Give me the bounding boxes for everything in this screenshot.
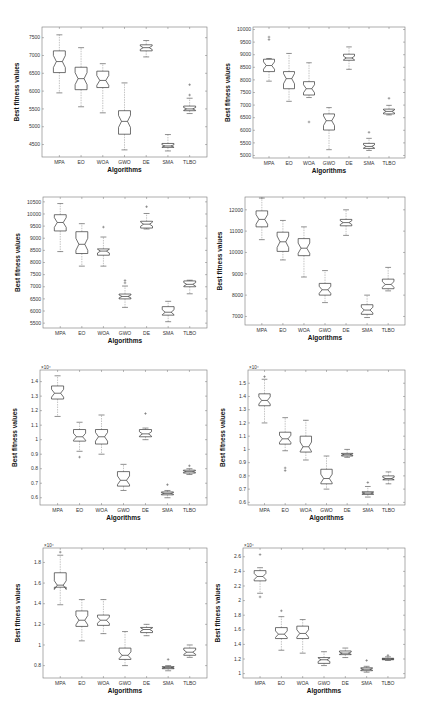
y-tick-label: 9000 — [30, 235, 41, 241]
x-tick-label: EO — [282, 507, 289, 513]
y-tick-label: 8000 — [30, 259, 41, 265]
y-tick-label: 0.9 — [239, 459, 246, 465]
y-tick-label: 8000 — [232, 292, 243, 298]
x-tick-label: DE — [343, 327, 351, 333]
y-exponent-label: ×10⁴ — [244, 543, 254, 548]
x-tick-label: SMA — [163, 680, 175, 686]
x-tick-label: DE — [143, 680, 151, 686]
x-tick-label: EO — [77, 159, 84, 165]
y-tick-label: 1.2 — [31, 407, 38, 413]
y-tick-label: 4500 — [29, 141, 40, 147]
x-tick-label: MPA — [259, 507, 270, 513]
x-tick-label: TLBO — [183, 159, 196, 165]
y-tick-label: 1.6 — [234, 626, 241, 632]
boxplot-panel-row1-right: 5000550060006500700075008000850090009500… — [224, 26, 405, 175]
x-tick-label: DE — [142, 507, 150, 513]
boxplot-panel-row4-right: 11.21.41.61.822.22.42.6×10⁴MPAEOWOAGWODE… — [214, 543, 405, 696]
x-tick-label: WOA — [97, 159, 110, 165]
x-tick-label: TLBO — [382, 507, 395, 513]
y-tick-label: 7500 — [29, 34, 40, 40]
y-tick-label: 5500 — [29, 106, 40, 112]
y-tick-label: 1.4 — [34, 600, 41, 606]
y-tick-label: 1 — [238, 670, 241, 676]
y-tick-label: 9000 — [232, 271, 243, 277]
x-tick-label: GWO — [119, 330, 132, 336]
x-tick-label: SMA — [361, 680, 373, 686]
y-tick-label: 6000 — [240, 127, 251, 133]
x-tick-label: EO — [279, 327, 286, 333]
x-tick-label: WOA — [298, 327, 311, 333]
x-tick-label: TLBO — [382, 160, 395, 166]
x-tick-label: SMA — [162, 507, 174, 513]
x-tick-label: GWO — [119, 680, 132, 686]
x-tick-label: SMA — [162, 159, 174, 165]
x-tick-label: TLBO — [382, 327, 395, 333]
y-axis-title: Best fitness values — [214, 583, 221, 642]
y-tick-label: 7000 — [29, 52, 40, 58]
y-tick-label: 0.8 — [31, 465, 38, 471]
x-tick-label: MPA — [52, 507, 63, 513]
y-tick-label: 10000 — [229, 249, 243, 255]
y-tick-label: 1.3 — [239, 406, 246, 412]
y-tick-label: 7500 — [30, 271, 41, 277]
y-tick-label: 10000 — [27, 211, 41, 217]
x-tick-label: GWO — [320, 507, 333, 513]
x-tick-label: GWO — [118, 159, 131, 165]
x-axis-title: Algorithms — [308, 334, 343, 342]
y-tick-label: 7500 — [240, 89, 251, 95]
x-tick-label: DE — [344, 507, 352, 513]
y-tick-label: 12000 — [229, 207, 243, 213]
y-axis-title: Best fitness values — [216, 231, 223, 290]
y-tick-label: 11000 — [229, 228, 243, 234]
boxplot-panel-row4-left: 0.811.21.41.61.8×10⁴MPAEOWOAGWODESMATLBO… — [14, 543, 207, 696]
x-tick-label: TLBO — [183, 680, 196, 686]
y-tick-label: 0.8 — [34, 662, 41, 668]
y-tick-label: 7000 — [240, 102, 251, 108]
x-tick-label: SMA — [362, 507, 374, 513]
plot-area — [40, 370, 207, 505]
x-tick-label: WOA — [96, 507, 109, 513]
x-tick-label: GWO — [323, 160, 336, 166]
y-tick-label: 1.8 — [34, 559, 41, 565]
plot-area — [243, 548, 405, 678]
x-tick-label: EO — [78, 330, 85, 336]
y-axis-title: Best fitness values — [219, 408, 226, 467]
y-tick-label: 6500 — [29, 70, 40, 76]
x-tick-label: SMA — [364, 160, 376, 166]
y-tick-label: 5500 — [30, 320, 41, 326]
x-tick-label: MPA — [54, 159, 65, 165]
x-tick-label: EO — [278, 680, 285, 686]
x-tick-label: GWO — [318, 680, 331, 686]
y-tick-label: 1.6 — [34, 580, 41, 586]
y-tick-label: 5000 — [29, 123, 40, 129]
x-tick-label: WOA — [97, 330, 110, 336]
y-tick-label: 5500 — [240, 140, 251, 146]
y-tick-label: 1.1 — [31, 422, 38, 428]
y-tick-label: 1 — [38, 642, 41, 648]
y-axis-title: Best fitness values — [14, 583, 21, 642]
y-tick-label: 1.4 — [234, 641, 241, 647]
x-tick-label: EO — [285, 160, 292, 166]
y-tick-label: 0.9 — [31, 451, 38, 457]
y-tick-label: 9000 — [240, 51, 251, 57]
y-axis-title: Best fitness values — [14, 233, 21, 292]
x-tick-label: WOA — [303, 160, 316, 166]
y-tick-label: 1.4 — [31, 378, 38, 384]
y-axis-title: Best fitness values — [13, 62, 20, 121]
boxplot-panel-row2-left: 5500600065007000750080008500900095001000… — [14, 197, 207, 345]
y-tick-label: 2 — [238, 597, 241, 603]
y-tick-label: 0.7 — [239, 486, 246, 492]
y-tick-label: 7000 — [30, 283, 41, 289]
x-tick-label: WOA — [97, 680, 110, 686]
y-tick-label: 10500 — [27, 199, 41, 205]
y-tick-label: 1.2 — [234, 656, 241, 662]
x-tick-label: DE — [342, 680, 350, 686]
y-exponent-label: ×10⁴ — [249, 365, 259, 370]
boxplot-panel-row1-left: 4500500055006000650070007500MPAEOWOAGWOD… — [13, 27, 207, 174]
x-tick-label: EO — [78, 680, 85, 686]
y-tick-label: 1.4 — [239, 393, 246, 399]
y-tick-label: 6500 — [30, 296, 41, 302]
y-tick-label: 8000 — [240, 77, 251, 83]
y-tick-label: 1 — [35, 436, 38, 442]
y-tick-label: 8500 — [30, 247, 41, 253]
